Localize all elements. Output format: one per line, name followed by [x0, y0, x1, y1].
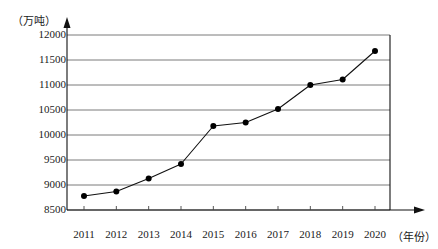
data-point: 2016: 10250 [243, 120, 249, 126]
data-point: 2015: 10180 [210, 123, 216, 129]
y-axis-arrow [64, 17, 71, 28]
data-point: 2019: 11110 [340, 77, 346, 83]
plot-frame [67, 24, 418, 210]
data-points: 2011: 87802012: 88702013: 91302014: 9420… [81, 48, 378, 199]
data-point: 2020: 11680 [372, 48, 378, 54]
data-point: 2014: 9420 [178, 161, 184, 167]
data-point: 2011: 8780 [81, 193, 87, 199]
data-point: 2017: 10520 [275, 106, 281, 112]
axis-arrows [64, 17, 426, 214]
x-axis-ticks [84, 206, 375, 210]
plot-area: 2011: 87802012: 88702013: 91302014: 9420… [0, 0, 438, 249]
data-point: 2013: 9130 [146, 176, 152, 182]
line-chart: （万吨） （年份） 120001150011000105001000095009… [0, 0, 438, 249]
x-axis-arrow [414, 207, 425, 214]
data-point: 2018: 11000 [307, 82, 313, 88]
gridlines [67, 35, 390, 210]
data-point: 2012: 8870 [113, 189, 119, 195]
data-line [84, 51, 375, 196]
